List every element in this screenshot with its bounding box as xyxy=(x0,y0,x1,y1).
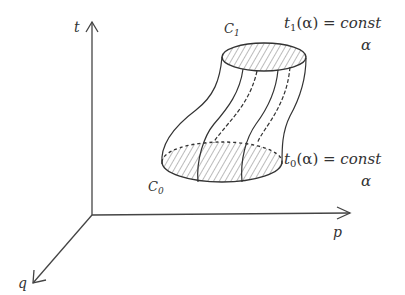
p-axis-label: p xyxy=(333,225,342,239)
curve-c1-label: C1 xyxy=(224,22,240,38)
bottom-condition-equals: = xyxy=(318,150,340,168)
top-condition-under: α xyxy=(361,38,371,53)
t-axis-label: t xyxy=(74,20,80,34)
top-condition-arg: (α) xyxy=(296,14,318,32)
bottom-cross-section xyxy=(162,142,282,182)
top-condition: t1(α) = const xyxy=(284,16,381,33)
top-condition-rhs: const xyxy=(340,14,381,32)
diagram-canvas: t p q C1 C0 t1(α) = const α t0(α) = cons… xyxy=(0,0,405,295)
tube-right-outline xyxy=(282,58,306,164)
curve-c0-label: C0 xyxy=(148,180,164,196)
bottom-condition-rhs: const xyxy=(340,150,381,168)
top-condition-equals: = xyxy=(318,14,340,32)
q-axis-label: q xyxy=(18,276,27,290)
q-axis xyxy=(33,215,92,283)
bottom-condition-arg: (α) xyxy=(296,150,318,168)
curve-c0-subscript: 0 xyxy=(158,186,164,196)
curve-c1-subscript: 1 xyxy=(234,28,240,38)
top-cross-section xyxy=(222,43,306,71)
curve-c1-letter: C xyxy=(224,21,234,36)
p-axis xyxy=(92,213,350,215)
diagram-svg xyxy=(0,0,405,295)
bottom-condition-under: α xyxy=(361,174,371,189)
curve-c0-letter: C xyxy=(148,179,158,194)
bottom-condition: t0(α) = const xyxy=(284,152,381,169)
